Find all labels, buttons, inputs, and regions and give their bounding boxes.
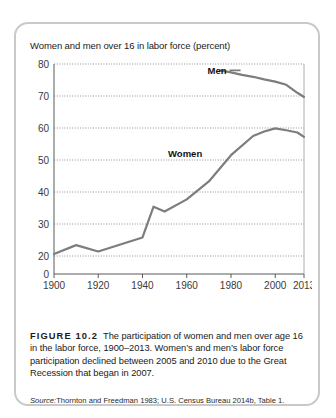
series-line-men <box>220 70 304 97</box>
figure-source: Source:Thornton and Freedman 1983; U.S. … <box>30 396 314 406</box>
figure-card: Women and men over 16 in labor force (pe… <box>14 22 320 406</box>
x-axis-tick-label: 2013 <box>293 280 312 291</box>
y-axis-tick-label: 70 <box>38 91 50 102</box>
x-axis-tick-label: 1980 <box>220 280 243 291</box>
y-axis-tick-label: 50 <box>38 155 50 166</box>
source-label: Source: <box>30 396 56 405</box>
chart-plot-area: 0203040506070801900192019401960198020002… <box>28 56 312 304</box>
figure-caption: FIGURE 10.2 The participation of women a… <box>30 330 310 380</box>
y-axis-tick-label: 40 <box>38 187 50 198</box>
y-axis-tick-label: 30 <box>38 219 50 230</box>
y-axis-tick-label: 0 <box>43 269 49 280</box>
y-axis-tick-label: 20 <box>38 251 50 262</box>
x-axis-tick-label: 1920 <box>87 280 110 291</box>
x-axis-tick-label: 1940 <box>131 280 154 291</box>
x-axis-tick-label: 1960 <box>176 280 199 291</box>
x-axis-tick-label: 2000 <box>264 280 287 291</box>
y-axis-tick-label: 80 <box>38 59 50 70</box>
y-axis-tick-label: 60 <box>38 123 50 134</box>
series-annotation-women: Women <box>168 148 202 159</box>
line-chart-svg: 0203040506070801900192019401960198020002… <box>28 56 312 304</box>
chart-title: Women and men over 16 in labor force (pe… <box>30 40 230 51</box>
x-axis-tick-label: 1900 <box>43 280 66 291</box>
source-text: Thornton and Freedman 1983; U.S. Census … <box>56 396 284 405</box>
series-annotation-men: Men <box>208 65 227 76</box>
figure-number: FIGURE 10.2 <box>30 331 98 341</box>
